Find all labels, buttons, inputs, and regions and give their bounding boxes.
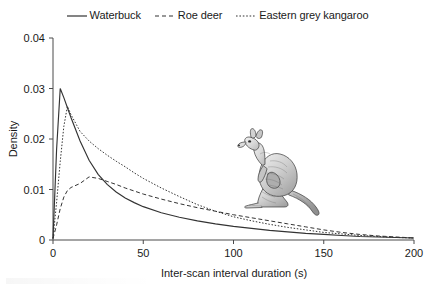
series-line-eastern-grey-kangaroo <box>53 106 414 238</box>
series-line-waterbuck <box>53 89 414 239</box>
density-line-chart: 00.010.020.030.04 050100150200 Density I… <box>0 0 435 287</box>
y-axis-title: Density <box>7 120 19 157</box>
x-axis-tick-label: 150 <box>315 247 333 259</box>
x-axis-tick-label: 200 <box>405 247 423 259</box>
x-axis-ticks: 050100150200 <box>50 240 423 259</box>
y-axis-tick-label: 0.02 <box>24 133 45 145</box>
x-axis-tick-label: 50 <box>137 247 149 259</box>
chart-series-group <box>53 89 414 239</box>
y-axis-tick-label: 0.03 <box>24 83 45 95</box>
series-line-roe-deer <box>53 177 414 239</box>
y-axis-ticks: 00.010.020.030.04 <box>24 32 53 246</box>
y-axis-tick-label: 0.04 <box>24 32 45 44</box>
figure-container: Waterbuck Roe deer Eastern grey kangaroo… <box>0 0 435 287</box>
x-axis-tick-label: 100 <box>224 247 242 259</box>
y-axis-tick-label: 0 <box>39 234 45 246</box>
x-axis-tick-label: 0 <box>50 247 56 259</box>
scan-artifact <box>6 278 156 284</box>
x-axis-title: Inter-scan interval duration (s) <box>161 267 307 279</box>
y-axis-tick-label: 0.01 <box>24 184 45 196</box>
